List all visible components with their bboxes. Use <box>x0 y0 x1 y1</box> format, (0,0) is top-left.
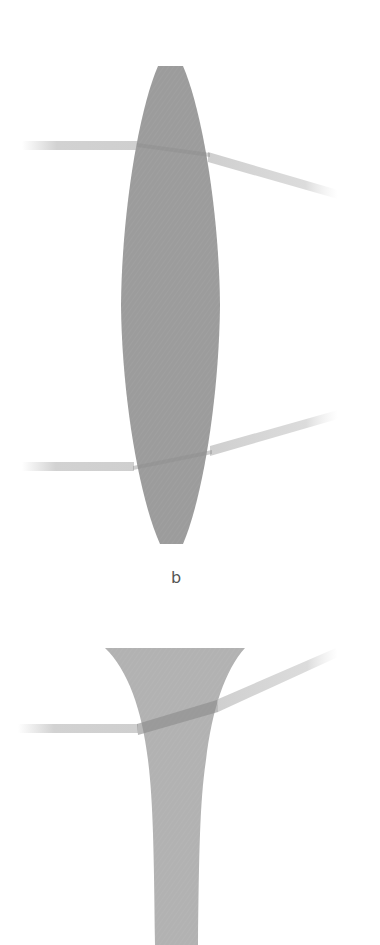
concave-lens-panel <box>18 648 338 945</box>
refracted-ray-top <box>208 152 338 199</box>
convex-lens-panel <box>22 66 338 544</box>
panel-label-b: b <box>168 568 184 588</box>
incoming-ray-bottom <box>22 462 134 471</box>
refracted-ray-bottom <box>210 410 338 456</box>
lens-diagram <box>0 0 380 945</box>
incoming-ray-top <box>22 141 138 150</box>
incoming-ray <box>18 724 138 733</box>
